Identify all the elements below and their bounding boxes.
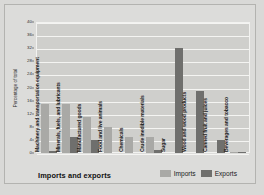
- legend-swatch-exports: [201, 170, 212, 177]
- y-axis-tick-mark: [32, 22, 34, 23]
- bar-exports[interactable]: [217, 140, 225, 153]
- y-axis-tick-mark: [32, 139, 34, 140]
- bar-group: Sugar: [164, 22, 185, 153]
- bar-exports[interactable]: [175, 48, 183, 153]
- y-axis-tick-mark: [32, 48, 34, 49]
- bar-imports[interactable]: [146, 137, 154, 153]
- y-axis-tick-mark: [32, 100, 34, 101]
- y-axis-ticks: 0481216202428323640: [18, 22, 34, 153]
- legend-item-imports[interactable]: Imports: [160, 170, 196, 177]
- bar-imports[interactable]: [104, 127, 112, 153]
- bar-exports[interactable]: [196, 91, 204, 153]
- chart-page: Percentage of total 0481216202428323640 …: [0, 0, 264, 195]
- bar-imports[interactable]: [41, 104, 49, 153]
- bar-imports[interactable]: [125, 137, 133, 153]
- gridline: [37, 154, 249, 155]
- bar-exports[interactable]: [154, 150, 162, 153]
- y-axis-tick-mark: [32, 153, 34, 154]
- bar-group: Canned fruit and juices: [206, 22, 227, 153]
- bar-group: Machinery and transportation equipment: [38, 22, 59, 153]
- bar-groups: Machinery and transportation equipmentMi…: [36, 22, 250, 153]
- plot-area: Machinery and transportation equipmentMi…: [36, 22, 250, 153]
- bar-group: Beverages and tobacco: [227, 22, 248, 153]
- category-label: Machinery and transportation equipment: [34, 57, 39, 152]
- bar-group: Manufactured goods: [80, 22, 101, 153]
- chart-caption: Imports and exports: [38, 171, 111, 180]
- bar-group: Wood and wood products: [185, 22, 206, 153]
- bar-imports[interactable]: [83, 117, 91, 153]
- y-axis-tick-mark: [32, 61, 34, 62]
- bar-imports[interactable]: [230, 152, 238, 153]
- y-axis-tick-mark: [32, 87, 34, 88]
- y-axis-tick-mark: [32, 126, 34, 127]
- bar-exports[interactable]: [70, 137, 78, 153]
- bar-group: Crude inedible materials: [143, 22, 164, 153]
- bar-imports[interactable]: [62, 104, 70, 153]
- bar-group: Food and live animals: [101, 22, 122, 153]
- y-axis-tick-mark: [32, 74, 34, 75]
- bar-exports[interactable]: [91, 140, 99, 153]
- legend-label-imports: Imports: [174, 170, 196, 177]
- bar-exports[interactable]: [49, 151, 57, 153]
- y-axis-tick-mark: [32, 113, 34, 114]
- bar-exports[interactable]: [238, 152, 246, 153]
- legend-swatch-imports: [160, 170, 171, 177]
- bar-group: Chemicals: [122, 22, 143, 153]
- y-axis-tick-mark: [32, 35, 34, 36]
- chart-legend: ImportsExports: [160, 170, 237, 177]
- bar-group: Minerals, fuels, and lubricants: [59, 22, 80, 153]
- legend-label-exports: Exports: [215, 170, 237, 177]
- chart-frame: Percentage of total 0481216202428323640 …: [4, 4, 256, 184]
- legend-item-exports[interactable]: Exports: [201, 170, 237, 177]
